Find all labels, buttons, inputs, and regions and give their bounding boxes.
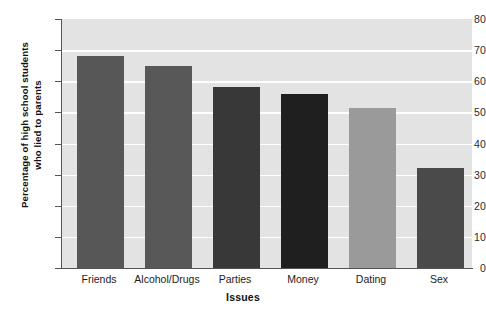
bar-friends <box>77 56 124 268</box>
y-tick-mark <box>55 175 61 176</box>
y-tick-mark <box>55 206 61 207</box>
bar-parties <box>213 87 260 268</box>
bar-chart: 80 70 60 50 40 30 20 10 0 Friends Alcoho… <box>0 0 486 317</box>
gridline <box>62 50 472 52</box>
y-tick-label-20: 20 <box>442 201 486 212</box>
plot-area <box>62 19 472 268</box>
y-tick-label-60: 60 <box>442 76 486 87</box>
bar-alcohol-drugs <box>145 66 192 268</box>
bar-money <box>281 94 328 268</box>
y-tick-label-40: 40 <box>442 139 486 150</box>
y-tick-mark <box>55 237 61 238</box>
y-tick-mark <box>55 81 61 82</box>
y-tick-label-0: 0 <box>442 263 486 274</box>
y-tick-mark <box>55 112 61 113</box>
x-axis-title: Issues <box>0 291 486 303</box>
y-tick-mark <box>55 50 61 51</box>
x-axis-line <box>61 268 473 269</box>
y-tick-label-10: 10 <box>442 232 486 243</box>
y-tick-label-80: 80 <box>442 14 486 25</box>
y-tick-mark <box>55 19 61 20</box>
y-axis-line <box>61 19 62 269</box>
y-axis-title: Percentage of high school students who l… <box>18 10 44 240</box>
y-tick-label-50: 50 <box>442 107 486 118</box>
y-tick-label-30: 30 <box>442 170 486 181</box>
bar-dating <box>349 108 396 268</box>
x-tick-label-sex: Sex <box>393 274 485 285</box>
y-tick-mark <box>55 268 61 269</box>
bar-sex <box>417 168 464 268</box>
y-axis-title-line-2: who lied to parents <box>31 10 44 240</box>
y-tick-label-70: 70 <box>442 45 486 56</box>
y-axis-title-line-1: Percentage of high school students <box>18 10 31 240</box>
y-tick-mark <box>55 144 61 145</box>
